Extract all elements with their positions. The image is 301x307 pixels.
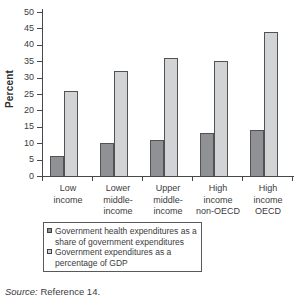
category-label-line: income xyxy=(243,195,293,207)
legend-label: Government expenditures as a percentage … xyxy=(55,247,171,268)
legend-label: Government health expenditures as a shar… xyxy=(55,226,197,247)
y-tick-label: 30 xyxy=(8,72,34,83)
y-tick-label: 35 xyxy=(8,56,34,67)
bar-gdp-expenditures xyxy=(64,91,78,177)
category-label-line: Upper xyxy=(143,183,193,195)
y-tick-label: 20 xyxy=(8,105,34,116)
category-label-line: income xyxy=(43,195,93,207)
source-text: Reference 14. xyxy=(38,286,100,297)
category-label-line: middle- xyxy=(93,195,143,207)
category-label-line: income xyxy=(143,206,193,218)
source-note: Source: Reference 14. xyxy=(5,286,100,297)
bar-health-expenditures xyxy=(100,143,114,177)
source-prefix: Source: xyxy=(5,286,38,297)
bar-health-expenditures xyxy=(200,133,214,177)
bar-health-expenditures xyxy=(50,156,64,177)
y-tick-label: 10 xyxy=(8,138,34,149)
y-tick-label: 45 xyxy=(8,23,34,34)
y-tick-label: 0 xyxy=(8,171,34,182)
bar-gdp-expenditures xyxy=(114,71,128,177)
category-label-line: Low xyxy=(43,183,93,195)
category-label-line: income xyxy=(93,206,143,218)
legend-item: Government health expenditures as a shar… xyxy=(46,226,199,247)
bar-gdp-expenditures xyxy=(164,58,178,177)
y-tick-label: 40 xyxy=(8,39,34,50)
category-label: HighincomeOECD xyxy=(243,183,293,218)
category-label: Lowincome xyxy=(43,183,93,206)
bar-health-expenditures xyxy=(150,140,164,177)
legend-swatch-health xyxy=(47,228,52,233)
category-label-line: non-OECD xyxy=(193,206,243,218)
bar-health-expenditures xyxy=(250,130,264,177)
y-axis-line xyxy=(42,9,43,177)
category-label-line: OECD xyxy=(243,206,293,218)
y-tick-label: 15 xyxy=(8,121,34,132)
legend-swatch-gdp xyxy=(47,249,52,254)
category-label: Lowermiddle-income xyxy=(93,183,143,218)
category-label-line: Lower xyxy=(93,183,143,195)
category-label-line: income xyxy=(193,195,243,207)
legend-box: Government health expenditures as a shar… xyxy=(43,222,202,272)
y-tick-label: 50 xyxy=(8,7,34,18)
y-tick-label: 25 xyxy=(8,89,34,100)
category-label: Uppermiddle-income xyxy=(143,183,193,218)
category-label-line: High xyxy=(193,183,243,195)
category-label: Highincomenon-OECD xyxy=(193,183,243,218)
legend-item: Government expenditures as a percentage … xyxy=(46,247,199,268)
x-axis-line xyxy=(42,176,294,177)
y-tick-label: 5 xyxy=(8,154,34,165)
category-label-line: High xyxy=(243,183,293,195)
bar-gdp-expenditures xyxy=(214,61,228,177)
bar-gdp-expenditures xyxy=(264,32,278,177)
category-label-line: middle- xyxy=(143,195,193,207)
